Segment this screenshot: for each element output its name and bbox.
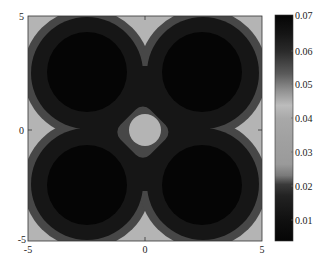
x-tick-label-right: 5: [260, 244, 265, 255]
colorbar-label-0.05: 0.05: [295, 79, 313, 90]
colorbar-label-0.04: 0.04: [295, 113, 313, 124]
colorbar-label-0.03: 0.03: [295, 147, 313, 158]
colorbar-gradient: [275, 15, 293, 241]
well-bottom-left: [47, 145, 127, 225]
well-bottom-right: [162, 145, 242, 225]
y-tick-label-top: 5: [19, 11, 24, 22]
colorbar: 0.07 0.06 0.05 0.04 0.03 0.02 0.01: [275, 10, 313, 241]
center-disc: [129, 114, 161, 146]
colorbar-label-0.02: 0.02: [295, 181, 313, 192]
well-top-left: [47, 32, 127, 112]
y-tick-label-middle: 0: [19, 125, 24, 136]
plot-area: [23, 9, 267, 248]
contour-figure: 5 0 -5 -5 0 5 0.07 0.06 0.05 0.04 0.03 0…: [0, 0, 324, 266]
well-top-right: [162, 32, 242, 112]
colorbar-label-0.01: 0.01: [295, 215, 313, 226]
x-tick-label-middle: 0: [143, 244, 148, 255]
x-tick-label-left: -5: [24, 244, 32, 255]
colorbar-label-0.07: 0.07: [295, 10, 313, 21]
colorbar-label-0.06: 0.06: [295, 46, 313, 57]
